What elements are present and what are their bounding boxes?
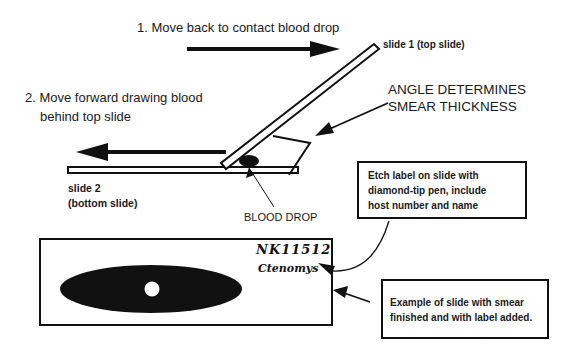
etched-host-number: NK11512 — [256, 243, 331, 256]
blood-drop-label: BLOOD DROP — [244, 212, 317, 223]
angle-pointer-arrow-icon — [315, 103, 388, 136]
example-callout-line-2: finished and with label added. — [390, 310, 532, 325]
etch-instruction-line-3: host number and name — [368, 198, 478, 213]
bottom-slide-label-line-2: (bottom slide) — [68, 198, 137, 209]
smear-clear-spot — [145, 282, 160, 297]
example-callout-line-1: Example of slide with smear — [390, 295, 524, 310]
angle-note-line-1: ANGLE DETERMINES — [388, 81, 526, 98]
top-slide-label: slide 1 (top slide) — [383, 40, 465, 50]
move-back-arrow-icon — [187, 41, 340, 57]
bottom-slide-shape — [68, 167, 298, 173]
angle-note-line-2: SMEAR THICKNESS — [388, 98, 517, 115]
step-2-label-line-1: 2. Move forward drawing blood — [25, 91, 203, 104]
etch-instruction-line-2: diamond-tip pen, include — [368, 183, 486, 198]
etch-instruction-line-1: Etch label on slide with — [368, 168, 479, 183]
etched-host-name: Ctenomys — [258, 263, 318, 274]
step-1-label: 1. Move back to contact blood drop — [137, 21, 339, 34]
move-forward-arrow-icon — [76, 143, 226, 161]
step-2-label-line-2: behind top slide — [40, 110, 131, 123]
bottom-slide-label-line-1: slide 2 — [68, 183, 101, 194]
example-callout-arrow-icon — [333, 286, 370, 302]
etch-instruction-callout: Etch label on slide with diamond-tip pen… — [357, 161, 527, 219]
example-slide-callout: Example of slide with smear finished and… — [381, 279, 549, 339]
top-slide-shape — [221, 44, 379, 169]
